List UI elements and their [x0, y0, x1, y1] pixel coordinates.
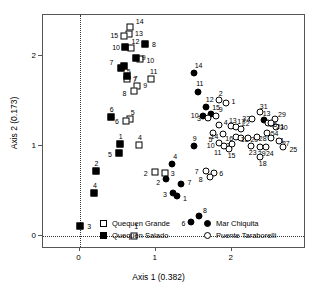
scatter-plot-figure: 1413151210798561142318109577615243141112…: [0, 0, 317, 289]
open-circle-marker: [268, 134, 275, 141]
point-label: 3: [163, 191, 167, 198]
open-circle-marker: [215, 140, 222, 147]
point-label: 10: [112, 44, 120, 51]
legend-item: Puente Taraborelli: [204, 231, 276, 240]
legend-item-label: Quequen Grande: [112, 219, 170, 228]
filled-circle-marker: [202, 104, 209, 111]
point-label: 10: [146, 57, 154, 64]
point-label: 4: [173, 153, 177, 160]
filled-circle-marker: [190, 142, 197, 149]
legend-open-square-marker: [100, 220, 107, 227]
legend-filled-square-marker: [100, 232, 107, 239]
point-label: 9: [219, 106, 223, 113]
filled-square-marker: [141, 40, 148, 47]
point-label: 5: [131, 109, 135, 116]
x-axis-tick-label: 1: [152, 253, 156, 262]
point-label: 14: [195, 62, 203, 69]
point-label: 1: [232, 98, 236, 105]
open-circle-marker: [280, 143, 287, 150]
open-circle-marker: [215, 122, 222, 129]
point-label: 7: [134, 75, 138, 82]
x-axis-tick-mark: [155, 247, 156, 251]
y-axis-tick-label: 0: [22, 231, 36, 240]
point-label: 8: [152, 41, 156, 48]
point-label: 11: [214, 149, 221, 156]
point-label: 12: [206, 96, 214, 103]
open-circle-marker: [268, 120, 275, 127]
point-label: 18: [259, 160, 267, 167]
filled-square-marker: [123, 73, 130, 80]
open-circle-marker: [212, 113, 219, 120]
legend-open-circle-marker: [204, 232, 211, 239]
legend: Quequen GrandeQuequen SaladoMar Chiquita…: [100, 219, 290, 243]
point-label: 29: [278, 111, 286, 118]
point-label: 8: [123, 90, 127, 97]
point-label: 6: [219, 170, 223, 177]
point-label: 9: [142, 54, 146, 61]
filled-circle-marker: [173, 193, 180, 200]
legend-item-label: Mar Chiquita: [216, 219, 259, 228]
filled-square-marker: [116, 141, 123, 148]
point-label: 6: [110, 106, 114, 113]
x-axis-tick-mark: [79, 247, 80, 251]
point-label: 8: [203, 207, 207, 214]
open-square-marker: [126, 23, 133, 30]
point-label: 4: [138, 134, 142, 141]
x-axis-tick-mark: [231, 247, 232, 251]
open-square-marker: [130, 87, 137, 94]
filled-circle-marker: [163, 176, 170, 183]
point-label: 15: [110, 32, 118, 39]
filled-square-marker: [132, 55, 139, 62]
point-label: 7: [187, 179, 191, 186]
filled-square-marker: [107, 114, 114, 121]
filled-square-marker: [90, 189, 97, 196]
filled-square-marker: [122, 43, 129, 50]
point-label: 13: [263, 110, 271, 117]
legend-item-label: Puente Taraborelli: [216, 231, 276, 240]
vertical-zero-reference-line: [80, 15, 81, 247]
point-label: 2: [144, 170, 148, 177]
point-label: 2: [95, 160, 99, 167]
y-axis-tick-label: 1: [22, 140, 36, 149]
open-circle-marker: [205, 114, 212, 121]
x-axis-label: Axis 1 (0.382): [0, 272, 317, 282]
filled-circle-marker: [195, 88, 202, 95]
point-label: 3: [87, 223, 91, 230]
point-label: 11: [196, 80, 203, 87]
filled-square-marker: [117, 65, 124, 72]
y-axis-tick-mark: [38, 235, 42, 236]
point-label: 3: [197, 115, 201, 122]
point-label: 23: [249, 149, 257, 156]
open-square-marker: [151, 169, 158, 176]
legend-item-label: Quequen Salado: [112, 231, 168, 240]
filled-square-marker: [92, 168, 99, 175]
point-label: 1: [183, 195, 187, 202]
point-label: 14: [136, 18, 144, 25]
point-label: 11: [150, 68, 157, 75]
point-label: 1: [119, 133, 123, 140]
point-label: 12: [132, 38, 140, 45]
filled-circle-marker: [169, 160, 176, 167]
point-label: 3: [171, 170, 175, 177]
point-label: 5: [108, 151, 112, 158]
point-label: 7: [195, 168, 199, 175]
y-axis-tick-mark: [38, 55, 42, 56]
filled-circle-marker: [178, 180, 185, 187]
filled-square-marker: [116, 150, 123, 157]
legend-item: Quequen Salado: [100, 231, 168, 240]
point-label: 2: [156, 179, 160, 186]
point-label: 24: [266, 150, 274, 157]
point-label: 7: [110, 59, 114, 66]
legend-filled-circle-marker: [204, 220, 211, 227]
point-label: 32: [242, 115, 250, 122]
legend-item: Mar Chiquita: [204, 219, 259, 228]
filled-circle-marker: [190, 69, 197, 76]
plot-frame: 1413151210798561142318109577615243141112…: [42, 14, 305, 248]
y-axis-tick-label: 2: [22, 50, 36, 59]
plot-area: 1413151210798561142318109577615243141112…: [43, 15, 304, 247]
point-label: 6: [115, 118, 119, 125]
x-axis-tick-label: 2: [228, 253, 232, 262]
point-label: 8: [199, 176, 203, 183]
open-square-marker: [148, 76, 155, 83]
point-label: 21: [276, 123, 284, 130]
